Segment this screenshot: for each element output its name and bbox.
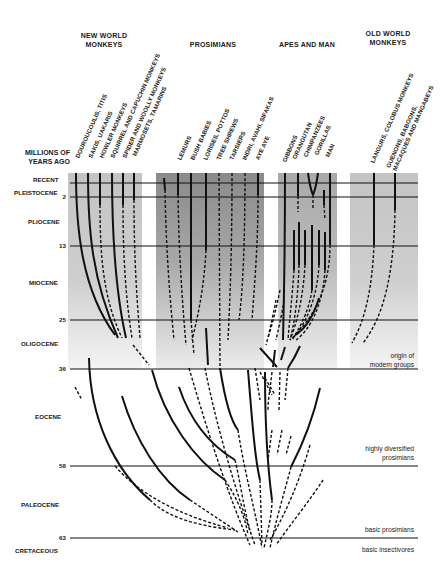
phylogeny-diagram — [0, 0, 440, 572]
tick-label: 2 — [46, 193, 66, 200]
tick-label: 25 — [46, 316, 66, 323]
tick-label: 58 — [46, 462, 66, 469]
band-new-world — [68, 173, 142, 369]
annotation-line: modern groups — [330, 360, 414, 369]
tick-label: 36 — [46, 365, 66, 372]
annotation-line: prosimians — [320, 453, 414, 462]
tick-label: 63 — [46, 534, 66, 541]
epoch-label-pliocene: PLIOCENE — [28, 218, 60, 225]
epoch-label-cretaceous: CRETACEOUS — [15, 547, 58, 554]
annotation-highly-diversified: highly diversified prosimians — [320, 444, 414, 462]
epoch-label-oligocene: OLIGOCENE — [21, 340, 58, 347]
epoch-label-eocene: EOCENE — [35, 413, 61, 420]
band-old-world — [350, 173, 418, 369]
tick-label: 13 — [46, 242, 66, 249]
annotation-line: origin of — [330, 351, 414, 360]
annotation-basic-prosimians: basic prosimians — [320, 525, 414, 534]
annotation-origin-modern-groups: origin of modern groups — [330, 351, 414, 369]
epoch-label-paleocene: PALEOCENE — [21, 501, 59, 508]
epoch-label-recent: RECENT — [33, 176, 58, 183]
band-prosimians — [156, 173, 264, 369]
epoch-label-miocene: MIOCENE — [29, 279, 58, 286]
annotation-basic-insectivores: basic insectivores — [316, 545, 414, 554]
annotation-line: highly diversified — [320, 444, 414, 453]
